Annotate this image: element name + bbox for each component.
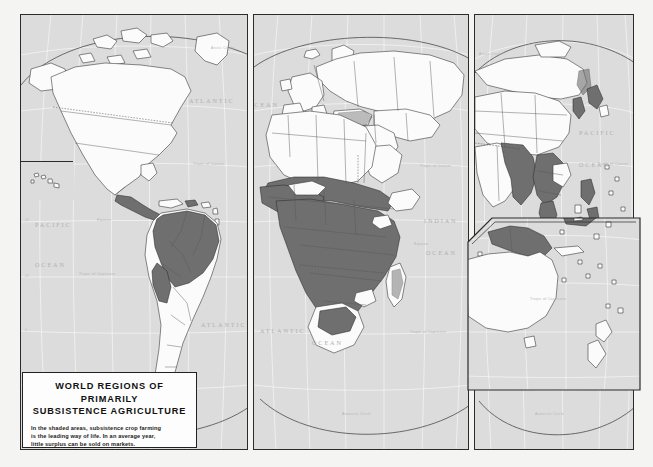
map-title-card: WORLD REGIONS OF PRIMARILY SUBSISTENCE A…: [22, 372, 197, 448]
lat-label-tropic-capricorn-2: Tropic of Capricorn: [410, 330, 446, 334]
ocean-label-atlantic-north: ATLANTIC: [189, 97, 234, 104]
map-title-line-2: SUBSISTENCE AGRICULTURE: [31, 405, 188, 418]
ocean-label-atlantic-south: ATLANTIC: [201, 321, 246, 328]
grat-degree-2: 40°: [25, 218, 30, 222]
ocean-label-pacific-east-1: PACIFIC: [579, 129, 615, 136]
ocean-label-indian-1: INDIAN: [424, 217, 457, 224]
lat-label-tropic-cancer: Tropic of Cancer: [193, 162, 225, 166]
hawaii-inset-box: [20, 161, 73, 199]
lat-label-equator: Equator: [97, 218, 112, 222]
map-panel-oceania-inset: Tropic of Capricorn: [466, 208, 642, 392]
lat-label-tropic-capricorn: Tropic of Capricorn: [79, 272, 115, 276]
map-caption-line-2: is the leading way of life. In an averag…: [31, 432, 188, 440]
map-title-line-1: WORLD REGIONS OF PRIMARILY: [31, 380, 188, 405]
map-caption-line-1: In the shaded areas, subsistence crop fa…: [31, 424, 188, 432]
map-panel-afro-eurasia: OCEAN ATLANTIC OCEAN INDIAN OCEAN Tropic…: [253, 14, 469, 450]
lat-label-tropic-cancer-2: Tropic of Cancer: [420, 164, 452, 168]
oceania-clip-host: Tropic of Capricorn: [466, 208, 642, 392]
hawaii-inset-svg: [20, 162, 74, 200]
afro-eurasia-map-svg: OCEAN ATLANTIC OCEAN INDIAN OCEAN Tropic…: [254, 15, 469, 450]
ocean-label-atlantic-south-ocean: OCEAN: [312, 339, 343, 346]
lat-label-antarctic-circle-3: Antarctic Circle: [535, 412, 564, 416]
lat-label-antarctic-circle-2: Antarctic Circle: [342, 412, 371, 416]
ocean-label-atlantic-south-2: ATLANTIC: [260, 327, 305, 334]
lat-label-arctic-circle: Arctic Circle: [211, 46, 234, 50]
map-caption-line-3: little surplus can be sold on markets.: [31, 440, 188, 448]
ocean-label-indian-2: OCEAN: [426, 249, 457, 256]
world-map-figure: PACIFIC OCEAN ATLANTIC ATLANTIC Arctic C…: [0, 0, 653, 467]
lat-label-tropic-cancer-3: Tropic of Cancer: [597, 162, 629, 166]
grat-degree-3: 20°: [25, 274, 30, 278]
lat-label-equator-2: Equator: [414, 242, 429, 246]
oceania-inset-svg: Tropic of Capricorn: [466, 208, 642, 392]
lat-label-arctic-circle-3: Arctic Circle: [479, 52, 502, 56]
ocean-label-atlantic-mid: OCEAN: [254, 101, 279, 108]
ocean-label-pacific-2: OCEAN: [35, 261, 66, 268]
ocean-label-pacific-1: PACIFIC: [35, 221, 71, 228]
lat-label-tropic-capricorn-3: Tropic of Capricorn: [530, 297, 566, 301]
